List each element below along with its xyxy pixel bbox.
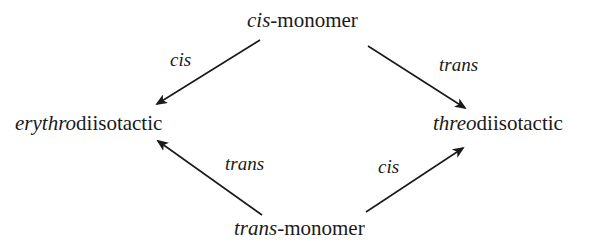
- node-threodiisotactic: threodiisotactic: [433, 113, 563, 134]
- node-prefix: cis: [247, 8, 270, 32]
- node-suffix: -monomer: [277, 216, 364, 240]
- node-suffix: diisotactic: [477, 111, 563, 135]
- node-prefix: threo: [433, 111, 477, 135]
- edge-label-trans-top-right: trans: [439, 55, 478, 74]
- node-suffix: diisotactic: [76, 111, 162, 135]
- node-prefix: erythro: [15, 111, 76, 135]
- node-trans-monomer: trans-monomer: [234, 218, 365, 239]
- edge-label-cis-bottom-right: cis: [378, 157, 399, 176]
- edge-label-cis-top-left: cis: [170, 50, 191, 69]
- node-erythrodiisotactic: erythrodiisotactic: [15, 113, 162, 134]
- node-suffix: -monomer: [270, 8, 357, 32]
- edge-label-trans-bottom-left: trans: [225, 154, 264, 173]
- node-prefix: trans: [234, 216, 277, 240]
- node-cis-monomer: cis-monomer: [247, 10, 358, 31]
